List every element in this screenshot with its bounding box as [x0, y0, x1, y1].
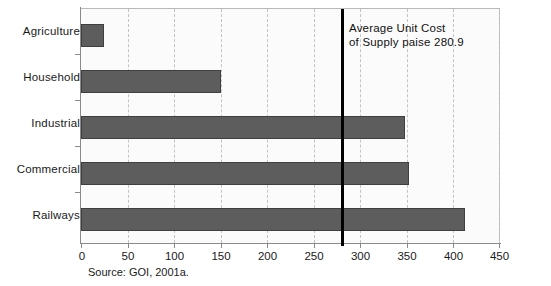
category-label-industrial: Industrial	[0, 117, 80, 129]
bar-railways	[81, 208, 465, 231]
y-axis-tick	[75, 192, 81, 193]
x-axis-tick-0	[81, 243, 82, 248]
x-tick-label-200: 200	[258, 250, 277, 262]
gridline-450	[499, 9, 500, 243]
y-axis-tick	[75, 146, 81, 147]
average-cost-annotation: Average Unit Cost of Supply paise 280.9	[349, 21, 464, 49]
y-axis	[80, 7, 81, 244]
x-axis-tick-50	[128, 243, 129, 248]
category-label-railways: Railways	[0, 209, 80, 221]
y-axis-tick	[75, 100, 81, 101]
x-tick-label-350: 350	[397, 250, 416, 262]
x-axis-tick-200	[267, 243, 268, 248]
bar-chart: Agriculture Household Industrial Commerc…	[0, 0, 551, 286]
x-axis-tick-150	[221, 243, 222, 248]
category-label-household: Household	[0, 71, 80, 83]
x-tick-label-0: 0	[79, 250, 85, 262]
x-axis-tick-250	[314, 243, 315, 248]
plot-area: Average Unit Cost of Supply paise 280.9	[81, 8, 500, 243]
bar-agriculture	[81, 24, 104, 47]
bar-household	[81, 70, 221, 93]
x-axis-tick-400	[453, 243, 454, 248]
x-axis-tick-350	[407, 243, 408, 248]
x-axis-tick-450	[499, 243, 500, 248]
x-tick-label-150: 150	[211, 250, 230, 262]
x-tick-label-450: 450	[490, 250, 509, 262]
x-axis-average-marker-tick	[341, 238, 344, 246]
bar-commercial	[81, 162, 409, 185]
x-axis-tick-100	[174, 243, 175, 248]
source-note: Source: GOI, 2001a.	[88, 266, 189, 278]
x-tick-label-300: 300	[351, 250, 370, 262]
x-tick-label-100: 100	[165, 250, 184, 262]
category-label-commercial: Commercial	[0, 163, 80, 175]
x-tick-label-250: 250	[304, 250, 323, 262]
x-tick-label-50: 50	[122, 250, 135, 262]
x-axis	[80, 243, 501, 244]
average-cost-line	[341, 9, 344, 243]
x-tick-label-400: 400	[444, 250, 463, 262]
x-axis-tick-300	[360, 243, 361, 248]
y-axis-tick	[75, 54, 81, 55]
category-label-agriculture: Agriculture	[0, 25, 80, 37]
bar-industrial	[81, 116, 405, 139]
